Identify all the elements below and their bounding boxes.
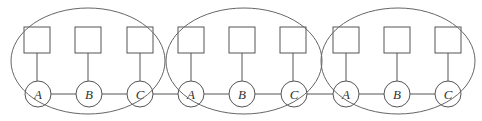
square-node [333,27,359,53]
group-3: ABC [321,8,475,114]
square-node [75,27,101,53]
node-label: B [393,87,401,102]
node-label: B [238,87,246,102]
node-label: B [85,87,93,102]
three-group-chain-diagram: ABCABCABC [0,0,482,121]
square-node [127,27,153,53]
square-node [384,27,410,53]
groups: ABCABCABC [11,8,475,114]
square-node [229,27,255,53]
node-label: C [136,87,145,102]
square-node [280,27,306,53]
square-node [178,27,204,53]
group-1: ABC [11,8,165,114]
square-node [24,27,50,53]
group-2: ABC [166,8,322,114]
square-node [435,27,461,53]
